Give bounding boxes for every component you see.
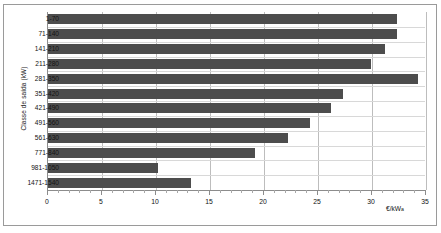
x-axis-unit-main: €/kW xyxy=(386,205,401,212)
bar xyxy=(48,74,418,84)
row-line xyxy=(48,42,425,43)
tick-major xyxy=(425,190,426,195)
tick-major xyxy=(101,190,102,195)
tick-minor xyxy=(144,190,145,193)
row-line xyxy=(48,131,425,132)
bar-row xyxy=(48,74,426,84)
tick-minor xyxy=(414,190,415,193)
row-line xyxy=(48,116,425,117)
tick-minor xyxy=(306,190,307,193)
tick-minor xyxy=(231,190,232,193)
tick-major xyxy=(47,190,48,195)
tick-minor xyxy=(133,190,134,193)
category-label: 351-420 xyxy=(0,89,59,99)
tick-minor xyxy=(123,190,124,193)
bar xyxy=(48,103,331,113)
row-line xyxy=(48,27,425,28)
tick-minor xyxy=(393,190,394,193)
tick-major xyxy=(209,190,210,195)
bar xyxy=(48,163,158,173)
tick-minor xyxy=(79,190,80,193)
x-axis-unit-label: €/kWa xyxy=(386,205,404,212)
bar-row xyxy=(48,133,426,143)
bar-row xyxy=(48,89,426,99)
category-label: 141-210 xyxy=(0,44,59,54)
category-label: 1-70 xyxy=(0,14,59,24)
x-tick-label: 20 xyxy=(251,198,275,205)
bar-row xyxy=(48,44,426,54)
bar-row xyxy=(48,148,426,158)
bar-row xyxy=(48,118,426,128)
tick-minor xyxy=(252,190,253,193)
tick-minor xyxy=(403,190,404,193)
row-line xyxy=(48,160,425,161)
bar-row xyxy=(48,29,426,39)
bar-row xyxy=(48,163,426,173)
tick-minor xyxy=(177,190,178,193)
tick-minor xyxy=(360,190,361,193)
tick-minor xyxy=(241,190,242,193)
tick-major xyxy=(371,190,372,195)
category-label: 1471-1540 xyxy=(0,178,59,188)
gridline xyxy=(426,12,427,190)
row-line xyxy=(48,175,425,176)
bar-row xyxy=(48,103,426,113)
tick-minor xyxy=(220,190,221,193)
tick-minor xyxy=(349,190,350,193)
row-line xyxy=(48,86,425,87)
x-tick-label: 0 xyxy=(35,198,59,205)
tick-minor xyxy=(274,190,275,193)
row-line xyxy=(48,71,425,72)
bar-row xyxy=(48,59,426,69)
tick-minor xyxy=(69,190,70,193)
x-axis-line xyxy=(47,190,425,191)
x-tick-label: 35 xyxy=(413,198,437,205)
category-label: 281-350 xyxy=(0,74,59,84)
bar xyxy=(48,178,191,188)
category-label: 71-140 xyxy=(0,29,59,39)
tick-minor xyxy=(339,190,340,193)
bar xyxy=(48,148,255,158)
row-line xyxy=(48,57,425,58)
x-tick-label: 15 xyxy=(197,198,221,205)
category-label: 771-840 xyxy=(0,148,59,158)
tick-major xyxy=(263,190,264,195)
x-axis-unit-sub: a xyxy=(401,206,404,212)
category-label: 981-1050 xyxy=(0,163,59,173)
bar-row xyxy=(48,178,426,188)
tick-minor xyxy=(382,190,383,193)
bar-row xyxy=(48,14,426,24)
tick-minor xyxy=(58,190,59,193)
tick-major xyxy=(317,190,318,195)
bar-chart-figure: Classe de saída (kW) 1-7071-140141-21021… xyxy=(0,0,441,233)
x-tick-label: 5 xyxy=(89,198,113,205)
tick-minor xyxy=(166,190,167,193)
bar xyxy=(48,89,343,99)
category-label: 561-630 xyxy=(0,133,59,143)
plot-area xyxy=(47,12,425,190)
x-tick-label: 25 xyxy=(305,198,329,205)
bar xyxy=(48,118,310,128)
bar xyxy=(48,133,288,143)
tick-minor xyxy=(90,190,91,193)
bar xyxy=(48,44,385,54)
tick-major xyxy=(155,190,156,195)
x-tick-label: 30 xyxy=(359,198,383,205)
category-label: 491-560 xyxy=(0,118,59,128)
tick-minor xyxy=(187,190,188,193)
row-line xyxy=(48,146,425,147)
tick-minor xyxy=(285,190,286,193)
tick-minor xyxy=(295,190,296,193)
category-label: 211-280 xyxy=(0,59,59,69)
x-tick-label: 10 xyxy=(143,198,167,205)
tick-minor xyxy=(328,190,329,193)
row-line xyxy=(48,101,425,102)
bar xyxy=(48,14,397,24)
tick-minor xyxy=(198,190,199,193)
bar xyxy=(48,59,371,69)
category-label: 421-490 xyxy=(0,103,59,113)
bar xyxy=(48,29,397,39)
tick-minor xyxy=(112,190,113,193)
